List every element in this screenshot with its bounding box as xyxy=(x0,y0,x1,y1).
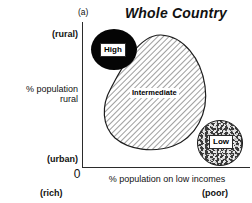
region-label-intermediate: Intermediate xyxy=(130,88,179,98)
panel-letter: (a) xyxy=(78,8,88,18)
x-axis-right-label: (poor) xyxy=(202,188,228,198)
x-axis-line xyxy=(82,167,250,168)
x-axis-title: % population on low incomes xyxy=(84,174,250,184)
region-label-high: High xyxy=(100,43,126,57)
region-label-low: Low xyxy=(209,135,233,149)
figure-panel: (a) Whole Country (rural) % population r… xyxy=(0,0,252,203)
chart-title: Whole Country xyxy=(104,6,248,22)
y-axis-title-line2: rural xyxy=(60,94,78,104)
y-axis-top-label: (rural) xyxy=(0,29,78,39)
x-axis-left-label: (rich) xyxy=(40,188,63,198)
y-axis-title-line1: % population xyxy=(26,84,78,94)
x-axis-origin-label: 0 xyxy=(72,168,82,181)
y-axis-bottom-label: (urban) xyxy=(0,154,78,164)
y-axis-line xyxy=(82,22,83,168)
y-axis-title: % population rural xyxy=(0,84,78,104)
